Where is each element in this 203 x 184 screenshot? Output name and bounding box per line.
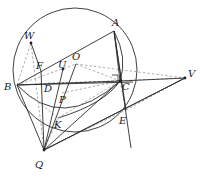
point-label-F: F [36, 61, 43, 71]
point-dot-V [184, 77, 187, 80]
point-label-V: V [188, 69, 195, 79]
dashed-B-O [17, 64, 76, 85]
point-dot-W [30, 42, 33, 45]
point-label-P: P [59, 95, 66, 105]
point-label-D: D [44, 84, 52, 94]
right-angle-marker-at-C [112, 75, 118, 81]
geometry-svg [0, 0, 203, 184]
segment-Q-C [44, 81, 120, 150]
point-label-E: E [119, 116, 126, 126]
point-label-Q: Q [35, 160, 43, 170]
dashed-O-V [76, 64, 185, 78]
point-dot-Q [43, 149, 46, 152]
segment-Q-V-main [44, 78, 185, 150]
segment-B-Q [17, 85, 44, 150]
point-dot-C [119, 80, 122, 83]
point-label-A: A [112, 18, 119, 28]
point-label-C: C [122, 82, 130, 92]
geometry-figure-canvas: AWOUFBDCVPKEQ [0, 0, 203, 184]
point-label-O: O [72, 52, 80, 62]
dashed-O-C [76, 64, 120, 81]
segment-Q-U [44, 69, 63, 150]
point-label-W: W [24, 31, 34, 41]
point-label-K: K [54, 120, 61, 130]
point-label-B: B [4, 82, 11, 92]
point-label-U: U [58, 60, 66, 70]
